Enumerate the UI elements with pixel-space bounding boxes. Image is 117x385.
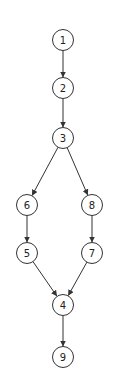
node-label: 8 <box>89 200 95 211</box>
node-label: 1 <box>60 35 66 46</box>
node-label: 4 <box>60 300 66 311</box>
node-1: 1 <box>53 30 74 51</box>
edge-5-to-4 <box>33 262 57 296</box>
node-8: 8 <box>82 195 103 216</box>
node-label: 7 <box>89 248 95 259</box>
node-9: 9 <box>53 347 74 368</box>
flow-graph: 123685749 <box>0 0 117 385</box>
node-label: 5 <box>24 248 30 259</box>
edge-7-to-4 <box>68 262 87 295</box>
node-2: 2 <box>53 78 74 99</box>
node-3: 3 <box>53 128 74 149</box>
node-7: 7 <box>82 243 103 264</box>
node-label: 9 <box>60 352 66 363</box>
node-4: 4 <box>53 295 74 316</box>
node-6: 6 <box>17 195 38 216</box>
node-5: 5 <box>17 243 38 264</box>
edge-3-to-8 <box>67 148 87 195</box>
node-label: 2 <box>60 83 66 94</box>
node-label: 6 <box>24 200 30 211</box>
node-label: 3 <box>60 133 66 144</box>
edge-3-to-6 <box>32 147 58 195</box>
nodes-layer: 123685749 <box>17 30 103 368</box>
